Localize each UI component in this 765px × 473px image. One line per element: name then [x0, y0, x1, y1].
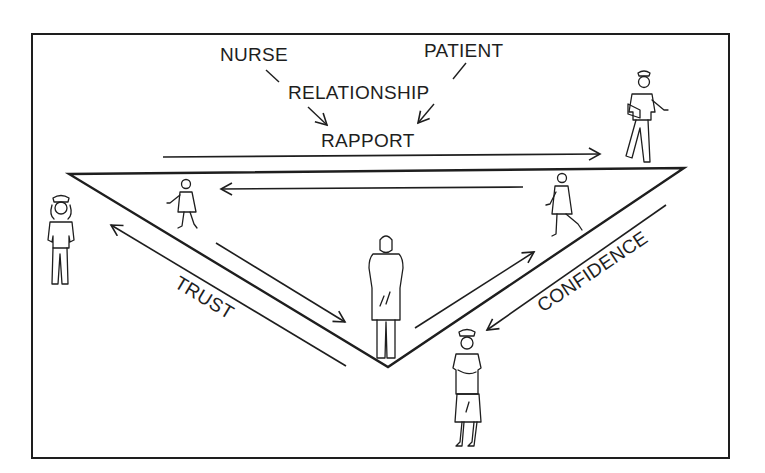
- nurse-connector: [266, 70, 279, 82]
- patient-figure-center: [369, 236, 403, 358]
- diagram-drawing: [0, 0, 765, 473]
- label-relationship: RELATIONSHIP: [288, 83, 430, 102]
- patient-figure-walking-right: [546, 174, 582, 237]
- label-nurse: NURSE: [220, 45, 288, 64]
- patient-connector: [453, 63, 466, 79]
- diagram-canvas: NURSE PATIENT RELATIONSHIP RAPPORT TRUST…: [0, 0, 765, 473]
- nurse-figure-left: [48, 196, 74, 285]
- rapport-arrow-left: [221, 187, 523, 189]
- relationship-to-rapport-arrow-right: [418, 104, 434, 123]
- label-patient: PATIENT: [424, 41, 504, 60]
- label-rapport: RAPPORT: [321, 131, 415, 150]
- nurse-figure-top-right: [626, 71, 668, 162]
- relationship-to-rapport-arrow-left: [308, 107, 327, 125]
- rapport-arrow-right: [163, 154, 600, 157]
- trust-arrow-outer: [111, 225, 346, 366]
- confidence-arrow-outer: [487, 205, 666, 330]
- nurse-figure-bottom: [453, 330, 481, 447]
- trust-arrow-inner: [216, 243, 345, 322]
- confidence-arrow-inner: [415, 252, 534, 328]
- patient-figure-walking-left: [167, 180, 197, 229]
